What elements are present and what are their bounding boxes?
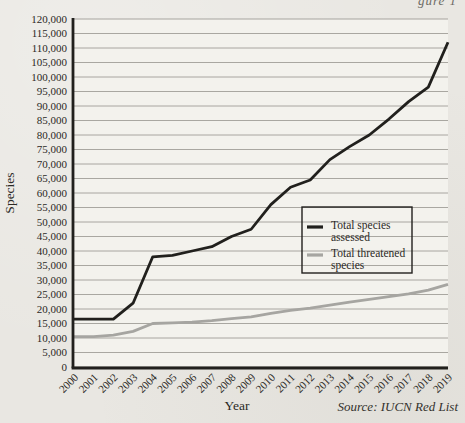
- x-tick-label: 2008: [214, 371, 238, 395]
- y-tick-label: 40,000: [37, 245, 68, 257]
- y-tick-label: 85,000: [37, 114, 68, 126]
- y-tick-label: 70,000: [37, 158, 68, 170]
- legend-label-line: Total threatened: [331, 247, 405, 259]
- x-tick-label: 2016: [371, 371, 395, 395]
- y-tick-label: 0: [62, 361, 68, 373]
- scanned-book-page: gure 1 05,00010,00015,00020,00025,00030,…: [0, 0, 465, 423]
- y-tick-label: 15,000: [37, 317, 68, 329]
- y-tick-label: 95,000: [37, 85, 68, 97]
- x-tick-label: 2012: [293, 371, 317, 395]
- y-tick-label: 20,000: [37, 303, 68, 315]
- x-tick-label: 2001: [76, 371, 100, 395]
- y-tick-label: 110,000: [32, 42, 68, 54]
- x-tick-label: 2007: [194, 371, 218, 395]
- y-tick-label: 55,000: [37, 201, 68, 213]
- x-tick-label: 2011: [273, 371, 297, 395]
- y-tick-label: 60,000: [37, 187, 68, 199]
- x-tick-label: 2013: [312, 371, 336, 395]
- species-line-chart: 05,00010,00015,00020,00025,00030,00035,0…: [0, 0, 465, 423]
- y-tick-label: 5,000: [42, 346, 67, 358]
- x-tick-label: 2003: [115, 371, 139, 395]
- y-tick-label: 80,000: [37, 129, 68, 141]
- x-tick-label: 2018: [411, 371, 435, 395]
- y-tick-label: 100,000: [31, 71, 67, 83]
- cropped-page-text-fragment: gure 1: [418, 0, 457, 9]
- x-tick-label: 2006: [174, 371, 198, 395]
- x-tick-label: 2019: [430, 371, 454, 395]
- x-tick-label: 2002: [96, 371, 120, 395]
- y-tick-label: 30,000: [37, 274, 68, 286]
- y-tick-label: 90,000: [37, 100, 68, 112]
- x-tick-label: 2000: [56, 371, 80, 395]
- x-tick-label: 2009: [234, 371, 258, 395]
- x-tick-label: 2015: [352, 371, 376, 395]
- legend-label-line: assessed: [331, 231, 370, 243]
- y-tick-label: 75,000: [37, 143, 68, 155]
- y-tick-label: 65,000: [37, 172, 68, 184]
- x-tick-label: 2014: [332, 371, 356, 395]
- y-tick-label: 120,000: [31, 13, 67, 25]
- x-tick-label: 2010: [253, 371, 277, 395]
- y-tick-label: 35,000: [37, 259, 68, 271]
- x-tick-label: 2005: [155, 371, 179, 395]
- y-tick-label: 10,000: [37, 332, 68, 344]
- legend-label-line: species: [331, 259, 365, 272]
- source-note: Source: IUCN Red List: [338, 399, 459, 414]
- y-tick-label: 105,000: [31, 56, 67, 68]
- y-tick-label: 115,000: [32, 27, 68, 39]
- y-tick-label: 25,000: [37, 288, 68, 300]
- y-axis-title: Species: [2, 172, 17, 213]
- y-tick-label: 50,000: [37, 216, 68, 228]
- y-tick-label: 45,000: [37, 230, 68, 242]
- x-tick-label: 2004: [135, 371, 159, 395]
- x-tick-label: 2017: [391, 371, 415, 395]
- x-axis-title: Year: [225, 398, 250, 413]
